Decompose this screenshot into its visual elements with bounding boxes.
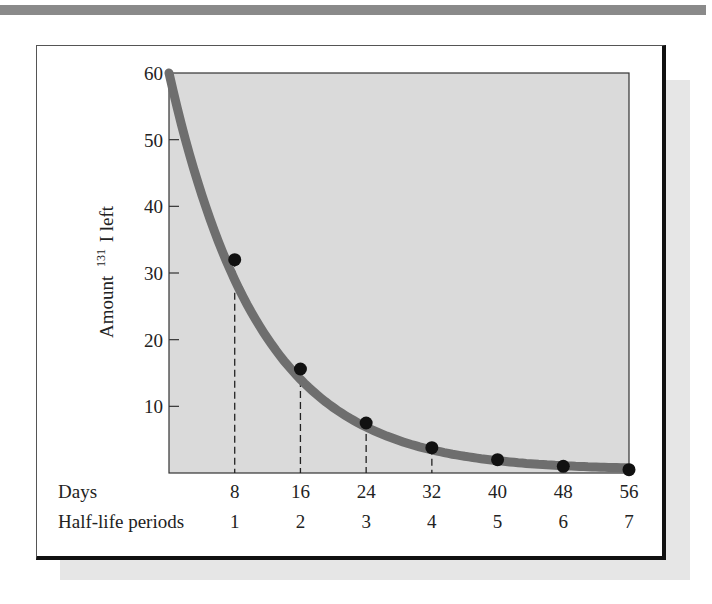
y-tick-label: 10 (144, 396, 163, 417)
x-axis-title-half-life: Half-life periods (58, 511, 184, 532)
x-tick-label-half-life: 3 (361, 511, 371, 532)
data-point (623, 463, 636, 476)
y-tick-label: 30 (144, 263, 163, 284)
svg-text:Amount 131 I left: Amount 131 I left (88, 205, 117, 338)
data-point (557, 460, 570, 473)
x-tick-label-half-life: 2 (296, 511, 306, 532)
data-point (360, 417, 373, 430)
x-tick-label-half-life: 7 (624, 511, 634, 532)
data-point (425, 441, 438, 454)
x-tick-label-half-life: 5 (493, 511, 503, 532)
x-axis-title-days: Days (58, 481, 97, 502)
x-tick-label-days: 56 (620, 481, 639, 502)
plot-area (169, 73, 629, 473)
x-tick-label-days: 24 (357, 481, 377, 502)
y-axis-title: Amount 131 I left (88, 205, 117, 338)
x-tick-label-days: 8 (230, 481, 240, 502)
y-axis-title-tail: I left (96, 205, 117, 242)
y-tick-label: 50 (144, 130, 163, 151)
y-tick-label: 20 (144, 330, 163, 351)
x-tick-label-days: 16 (291, 481, 310, 502)
data-point (228, 253, 241, 266)
x-tick-label-days: 32 (422, 481, 441, 502)
x-tick-label-half-life: 4 (427, 511, 437, 532)
y-axis-title-main: Amount (96, 275, 117, 338)
x-tick-label-days: 40 (488, 481, 507, 502)
x-tick-label-half-life: 1 (230, 511, 240, 532)
data-point (491, 453, 504, 466)
y-tick-label: 40 (144, 196, 163, 217)
x-axis-labels: 81162243324405486567 (230, 481, 639, 532)
y-axis-title-sup: 131 (94, 249, 108, 267)
x-tick-label-days: 48 (554, 481, 573, 502)
x-tick-label-half-life: 6 (559, 511, 569, 532)
decay-chart: 102030405060 81162243324405486567 Days H… (0, 0, 712, 604)
y-tick-label: 60 (144, 63, 163, 84)
data-point (294, 363, 307, 376)
